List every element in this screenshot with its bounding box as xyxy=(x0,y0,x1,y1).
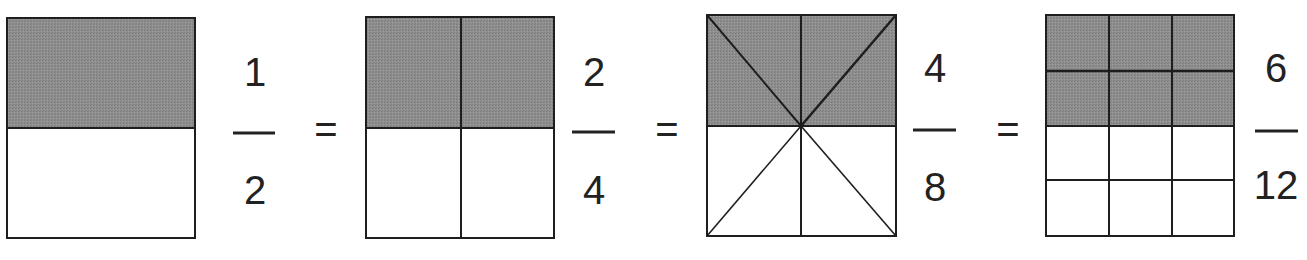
figure-six-twelfths xyxy=(1046,15,1234,236)
denominator: 2 xyxy=(244,168,266,212)
figure-four-eighths xyxy=(707,15,896,236)
figure-two-quarters xyxy=(366,17,554,238)
figure-one-half xyxy=(7,18,195,238)
diagonal-bottom-left xyxy=(707,126,801,236)
equals-sign: = xyxy=(314,107,337,151)
denominator: 8 xyxy=(924,165,946,209)
numerator: 1 xyxy=(244,50,266,94)
equals-sign: = xyxy=(655,107,678,151)
fraction-six-twelfths: 6 12 xyxy=(1254,46,1299,207)
numerator: 4 xyxy=(924,46,946,90)
fraction-two-quarters: 2 4 xyxy=(572,50,615,212)
equivalent-fractions-diagram: 1 2 = 2 4 = 4 8 = xyxy=(0,0,1307,260)
shaded-region xyxy=(7,18,195,128)
numerator: 2 xyxy=(583,50,605,94)
diagonal-bottom-right xyxy=(801,126,896,236)
denominator: 12 xyxy=(1254,163,1299,207)
equals-sign: = xyxy=(996,107,1019,151)
numerator: 6 xyxy=(1265,46,1287,90)
denominator: 4 xyxy=(583,168,605,212)
fraction-four-eighths: 4 8 xyxy=(913,46,956,209)
fraction-one-half: 1 2 xyxy=(233,50,275,212)
